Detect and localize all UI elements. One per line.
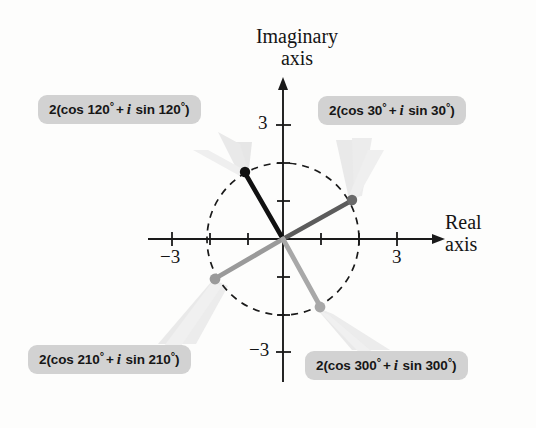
callout-210-coef: 2(cos — [39, 352, 77, 367]
callout-30-angle1: 30 — [367, 103, 382, 118]
callout-120-angle2: 120 — [158, 102, 180, 117]
real-axis-arrowhead — [432, 234, 445, 244]
imaginary-axis-label-line1: Imaginary — [232, 26, 362, 48]
callout-30: 2(cos 30°+i sin 30°) — [318, 96, 466, 125]
callout-120-close: ) — [185, 102, 189, 117]
callout-30-close: ) — [450, 103, 454, 118]
callout-30-plus: + — [387, 103, 399, 118]
point-210 — [210, 274, 221, 285]
real-axis-label-line2: axis — [445, 234, 515, 256]
callout-210: 2(cos 210°+i sin 210°) — [28, 345, 191, 374]
imaginary-axis-label: Imaginary axis — [232, 26, 362, 69]
tick-label-x-neg3: −3 — [160, 247, 180, 266]
callout-300: 2(cos 300°+i sin 300°) — [305, 351, 468, 380]
callout-300-angle2: 300 — [425, 358, 447, 373]
point-300 — [315, 302, 326, 313]
real-axis-label: Real axis — [445, 212, 515, 255]
callout-300-sin: sin — [399, 358, 426, 373]
callout-120-angle1: 120 — [87, 102, 109, 117]
callout-210-angle1: 210 — [77, 352, 99, 367]
callout-300-angle1: 300 — [354, 358, 376, 373]
callout-30-deg1: ° — [382, 101, 386, 113]
callout-300-plus: + — [381, 358, 393, 373]
vector-120 — [245, 173, 283, 239]
callout-120: 2(cos 120°+i sin 120°) — [38, 95, 201, 124]
callout-300-coef: 2(cos — [316, 358, 354, 373]
callout-120-coef: 2(cos — [49, 102, 87, 117]
vector-300 — [283, 239, 320, 306]
callout-30-coef: 2(cos — [329, 103, 367, 118]
tick-label-y-neg3: −3 — [249, 340, 269, 359]
callout-30-sin: sin — [405, 103, 432, 118]
real-axis-label-line1: Real — [445, 212, 515, 234]
imaginary-axis-arrowhead — [278, 77, 288, 90]
callout-210-close: ) — [175, 352, 179, 367]
tick-label-y-pos3: 3 — [258, 113, 268, 132]
point-120 — [240, 167, 250, 177]
imaginary-axis-label-line2: axis — [232, 48, 362, 70]
callout-120-sin: sin — [132, 102, 159, 117]
callout-30-angle2: 30 — [431, 103, 446, 118]
callout-210-plus: + — [104, 352, 116, 367]
callout-120-plus: + — [114, 102, 126, 117]
vector-210 — [216, 239, 283, 278]
tick-label-x-pos3: 3 — [392, 247, 402, 266]
callout-210-sin: sin — [122, 352, 149, 367]
point-30 — [347, 195, 357, 205]
callout-300-close: ) — [452, 358, 456, 373]
figure-canvas: Imaginary axis Real axis −3 3 3 −3 2(cos… — [0, 0, 536, 428]
vector-30 — [283, 201, 351, 239]
callout-210-angle2: 210 — [148, 352, 170, 367]
